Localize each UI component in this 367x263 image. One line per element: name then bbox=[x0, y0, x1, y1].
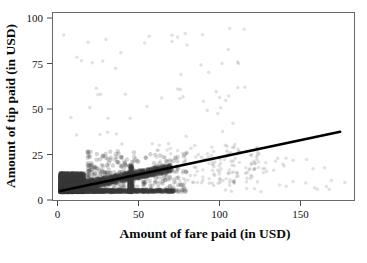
x-tick-label-0: 0 bbox=[55, 208, 61, 220]
chart-canvas: 0 25 50 75 100 0 50 100 150 Amount of fa… bbox=[0, 0, 367, 263]
x-axis-title: Amount of fare paid (in USD) bbox=[119, 226, 290, 241]
y-tick-label-50: 50 bbox=[32, 103, 44, 115]
y-tick-label-25: 25 bbox=[32, 149, 44, 161]
y-axis-title: Amount of tip paid (in USD) bbox=[3, 24, 18, 188]
y-tick-label-100: 100 bbox=[27, 12, 44, 24]
x-tick-label-100: 100 bbox=[211, 208, 228, 220]
scatter-plot-figure: 0 25 50 75 100 0 50 100 150 Amount of fa… bbox=[0, 0, 367, 263]
y-tick-label-0: 0 bbox=[38, 194, 44, 206]
x-tick-label-50: 50 bbox=[133, 208, 145, 220]
y-tick-label-75: 75 bbox=[32, 58, 44, 70]
x-tick-label-150: 150 bbox=[292, 208, 309, 220]
figure-background bbox=[0, 0, 367, 263]
